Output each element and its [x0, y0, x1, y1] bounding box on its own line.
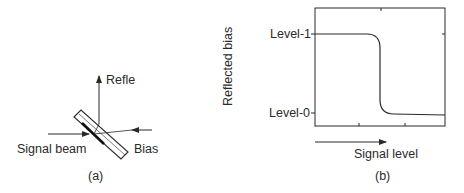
caption-b: (b): [375, 170, 390, 183]
y-axis-label: Reflected bias: [222, 27, 235, 106]
y-tick-label-level-1: Level-1: [270, 28, 311, 41]
y-tick-label-level-0: Level-0: [269, 107, 310, 120]
bias-label: Bias: [134, 143, 158, 156]
x-axis-label: Signal level: [354, 148, 418, 161]
caption-a: (a): [88, 170, 103, 183]
transfer-curve: [315, 34, 445, 115]
panel-b-chart: [311, 8, 445, 142]
signal-beam-label: Signal beam: [17, 143, 87, 156]
reflected-label: Refle: [106, 74, 135, 87]
